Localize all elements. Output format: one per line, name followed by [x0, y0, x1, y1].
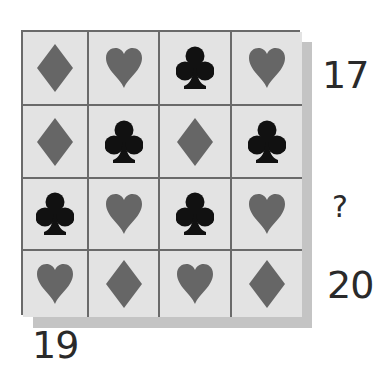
- column-1-total: 19: [32, 326, 78, 364]
- heart-icon: [249, 48, 285, 88]
- grid-cell-r3-c4: [232, 179, 302, 251]
- club-icon: [105, 120, 143, 164]
- grid-cell-r4-c3: [160, 251, 232, 317]
- club-icon: [176, 46, 214, 90]
- heart-icon: [37, 264, 73, 304]
- diamond-icon: [37, 118, 73, 166]
- grid-cell-r1-c2: [89, 32, 160, 106]
- grid-cell-r1-c3: [160, 32, 232, 106]
- diamond-icon: [106, 260, 142, 308]
- grid-cell-r2-c2: [89, 106, 160, 179]
- row-1-total: 17: [322, 56, 368, 94]
- symbol-grid: [21, 30, 300, 315]
- grid-cell-r2-c1: [23, 106, 89, 179]
- row-4-total: 20: [327, 266, 373, 304]
- grid-cell-r1-c1: [23, 32, 89, 106]
- grid-cell-r2-c4: [232, 106, 302, 179]
- grid-cell-r4-c1: [23, 251, 89, 317]
- grid-cell-r1-c4: [232, 32, 302, 106]
- heart-icon: [249, 194, 285, 234]
- grid-cell-r3-c1: [23, 179, 89, 251]
- grid-cell-r4-c4: [232, 251, 302, 317]
- diamond-icon: [37, 44, 73, 92]
- row-3-unknown-total: ?: [332, 192, 347, 222]
- grid-cell-r3-c2: [89, 179, 160, 251]
- heart-icon: [106, 194, 142, 234]
- club-icon: [36, 192, 74, 236]
- club-icon: [176, 192, 214, 236]
- heart-icon: [106, 48, 142, 88]
- diamond-icon: [249, 260, 285, 308]
- club-icon: [248, 120, 286, 164]
- diamond-icon: [177, 118, 213, 166]
- grid-cell-r2-c3: [160, 106, 232, 179]
- heart-icon: [177, 264, 213, 304]
- grid-cell-r3-c3: [160, 179, 232, 251]
- grid-cell-r4-c2: [89, 251, 160, 317]
